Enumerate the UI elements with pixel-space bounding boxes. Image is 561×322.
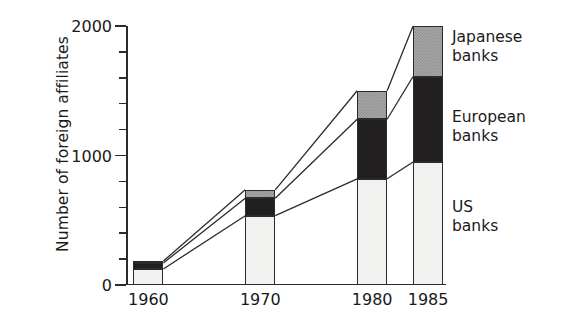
legend-item-japanese-banks: Japanese banks bbox=[452, 28, 522, 66]
x-axis-line bbox=[126, 284, 446, 286]
y-axis-tick-label: 2000 bbox=[71, 17, 112, 36]
connector-line bbox=[387, 162, 413, 179]
legend-label-us-line1: US bbox=[452, 198, 498, 217]
y-axis-tick-label: 0 bbox=[102, 276, 112, 295]
connector-line bbox=[275, 119, 357, 198]
legend-item-us-banks: US banks bbox=[452, 198, 498, 236]
y-axis-major-tick bbox=[115, 25, 126, 27]
bar-segment-eu-1980 bbox=[357, 119, 387, 179]
bar-1970 bbox=[245, 26, 275, 285]
bar-segment-us-1960 bbox=[133, 269, 163, 285]
connector-line bbox=[275, 91, 357, 190]
chart-figure: Number of foreign affiliates 010002000 1… bbox=[0, 0, 561, 322]
bar-1980 bbox=[357, 26, 387, 285]
y-axis-tick-label: 1000 bbox=[71, 146, 112, 165]
y-axis-line bbox=[126, 26, 128, 285]
y-axis-minor-tick bbox=[119, 103, 126, 105]
y-axis-minor-tick bbox=[119, 181, 126, 183]
y-axis-major-tick bbox=[115, 155, 126, 157]
x-axis-tick-label: 1985 bbox=[408, 290, 449, 309]
y-axis-minor-tick bbox=[119, 207, 126, 209]
plot-area: 010002000 1960197019801985 bbox=[126, 26, 446, 285]
legend-label-european-line1: European bbox=[452, 108, 526, 127]
bar-segment-eu-1960 bbox=[133, 263, 163, 269]
bar-segment-us-1985 bbox=[413, 162, 443, 285]
connector-line bbox=[163, 190, 245, 261]
x-axis-tick-label: 1970 bbox=[240, 290, 281, 309]
legend-label-japanese-line2: banks bbox=[452, 47, 522, 66]
bar-segment-jp-1970 bbox=[245, 190, 275, 198]
bar-segment-eu-1985 bbox=[413, 77, 443, 162]
bar-1960 bbox=[133, 26, 163, 285]
connector-line bbox=[163, 198, 245, 263]
connector-line bbox=[387, 77, 413, 120]
y-axis-major-tick bbox=[115, 284, 126, 286]
x-axis-tick-label: 1960 bbox=[128, 290, 169, 309]
bar-segment-eu-1970 bbox=[245, 198, 275, 215]
bar-segment-jp-1960 bbox=[133, 261, 163, 263]
y-axis-minor-tick bbox=[119, 232, 126, 234]
legend-item-european-banks: European banks bbox=[452, 108, 526, 146]
legend-label-japanese-line1: Japanese bbox=[452, 28, 522, 47]
x-axis-tick-label: 1980 bbox=[352, 290, 393, 309]
y-axis-minor-tick bbox=[119, 129, 126, 131]
legend-label-us-line2: banks bbox=[452, 217, 498, 236]
bar-1985 bbox=[413, 26, 443, 285]
y-axis-minor-tick bbox=[119, 258, 126, 260]
bar-segment-jp-1985 bbox=[413, 26, 443, 77]
legend-label-european-line2: banks bbox=[452, 127, 526, 146]
connector-line bbox=[387, 26, 413, 91]
connector-line bbox=[275, 179, 357, 216]
bar-segment-us-1980 bbox=[357, 179, 387, 285]
y-axis-minor-tick bbox=[119, 77, 126, 79]
connector-line bbox=[163, 216, 245, 269]
segment-connector-lines bbox=[126, 26, 446, 285]
y-axis-title: Number of foreign affiliates bbox=[54, 0, 72, 289]
y-axis-minor-tick bbox=[119, 51, 126, 53]
bar-segment-jp-1980 bbox=[357, 91, 387, 119]
bar-segment-us-1970 bbox=[245, 216, 275, 285]
